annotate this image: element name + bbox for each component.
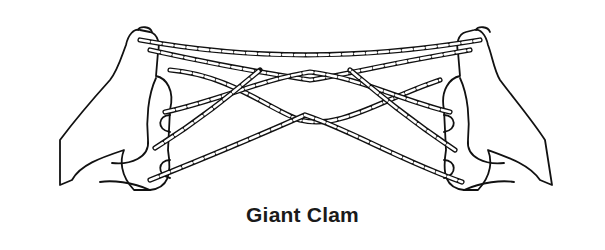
figure-caption: Giant Clam (0, 203, 605, 227)
strings (140, 40, 480, 182)
